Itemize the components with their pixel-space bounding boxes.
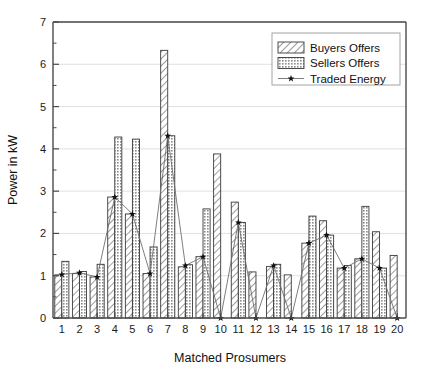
bar-buyers	[214, 154, 221, 318]
x-tick-label: 19	[373, 323, 385, 335]
bar-sellers	[380, 268, 387, 318]
bar-buyers	[90, 277, 97, 318]
bar-buyers	[284, 275, 291, 318]
x-tick-label: 17	[338, 323, 350, 335]
x-tick-label: 2	[76, 323, 82, 335]
bar-sellers	[327, 235, 334, 318]
x-tick-label: 16	[320, 323, 332, 335]
bar-sellers	[79, 271, 86, 318]
x-tick-label: 12	[250, 323, 262, 335]
bar-buyers	[178, 267, 185, 318]
bar-sellers	[344, 266, 351, 318]
bar-buyers	[267, 266, 274, 318]
x-tick-label: 7	[165, 323, 171, 335]
bar-sellers	[132, 139, 139, 318]
x-axis-label: Matched Prosumers	[174, 351, 286, 365]
legend-label: Traded Energy	[310, 73, 386, 85]
bar-sellers	[115, 137, 122, 318]
bar-sellers	[185, 265, 192, 318]
x-tick-label: 8	[182, 323, 188, 335]
x-tick-label: 1	[59, 323, 65, 335]
x-tick-label: 11	[233, 323, 244, 335]
chart-figure: 01234567 1234567891011121314151617181920…	[0, 0, 426, 381]
bar-buyers	[125, 214, 132, 318]
x-tick-label: 13	[268, 323, 280, 335]
legend-swatch-sellers	[278, 58, 304, 69]
bar-sellers	[150, 247, 157, 318]
bar-sellers	[203, 209, 210, 318]
bar-buyers	[337, 268, 344, 318]
x-tick-label: 18	[356, 323, 368, 335]
y-tick-label: 5	[40, 101, 46, 113]
bar-buyers	[72, 274, 79, 318]
x-tick-label: 15	[303, 323, 315, 335]
x-tick-label: 9	[200, 323, 206, 335]
bar-sellers	[238, 222, 245, 318]
y-axis-label: Power in kW	[6, 135, 20, 205]
x-tick-label: 10	[215, 323, 227, 335]
y-tick-label: 4	[40, 143, 46, 155]
legend-item[interactable]: Buyers Offers	[278, 42, 380, 54]
grouped-bar-chart: 01234567 1234567891011121314151617181920…	[0, 0, 426, 381]
y-tick-label: 2	[40, 227, 46, 239]
bar-sellers	[274, 264, 281, 318]
bar-buyers	[355, 259, 362, 318]
y-tick-label: 3	[40, 185, 46, 197]
bar-buyers	[196, 257, 203, 318]
bar-buyers	[143, 274, 150, 318]
x-tick-label: 3	[94, 323, 100, 335]
x-tick-label: 5	[129, 323, 135, 335]
bar-buyers	[302, 243, 309, 318]
bar-sellers	[309, 216, 316, 318]
legend-item[interactable]: Sellers Offers	[278, 57, 380, 69]
y-tick-label: 0	[40, 312, 46, 324]
legend-label: Buyers Offers	[310, 42, 380, 54]
bar-buyers	[231, 202, 238, 318]
legend-swatch-buyers	[278, 42, 304, 53]
y-tick-label: 1	[40, 270, 46, 282]
x-tick-label: 14	[285, 323, 297, 335]
legend-label: Sellers Offers	[310, 57, 380, 69]
x-tick-label: 4	[112, 323, 118, 335]
bar-buyers	[108, 197, 115, 318]
x-tick-label: 20	[391, 323, 403, 335]
bar-sellers	[62, 261, 69, 318]
legend[interactable]: Buyers OffersSellers OffersTraded Energy	[272, 33, 400, 85]
x-tick-label: 6	[147, 323, 153, 335]
bar-buyers	[372, 232, 379, 318]
y-tick-label: 6	[40, 58, 46, 70]
y-tick-label: 7	[40, 16, 46, 28]
